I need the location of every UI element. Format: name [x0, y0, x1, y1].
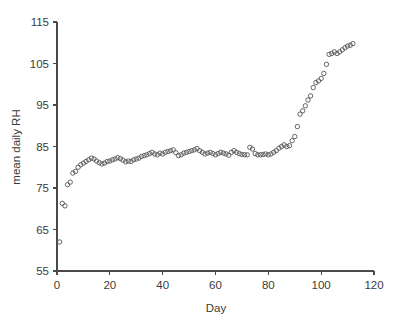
- y-tick-label-55: 55: [36, 265, 49, 277]
- y-tick-label-95: 95: [36, 99, 49, 111]
- data-point: [287, 143, 291, 147]
- data-point: [208, 150, 212, 154]
- data-point: [63, 204, 67, 208]
- y-tick-label-75: 75: [36, 182, 49, 194]
- y-tick-label-105: 105: [30, 58, 49, 70]
- data-point: [213, 153, 217, 157]
- x-tick-label-0: 0: [54, 279, 60, 291]
- data-point: [224, 152, 228, 156]
- data-points-group: [57, 41, 355, 244]
- data-point: [227, 153, 231, 157]
- data-point: [68, 180, 72, 184]
- data-point: [145, 153, 149, 157]
- x-tick-label-60: 60: [209, 279, 222, 291]
- x-tick-label-120: 120: [364, 279, 383, 291]
- data-point: [324, 62, 328, 66]
- chart-container: 5565758595105115020406080100120 Day mean…: [0, 0, 399, 322]
- data-point: [306, 98, 310, 102]
- data-point: [57, 240, 61, 244]
- data-point: [113, 157, 117, 161]
- y-tick-label-85: 85: [36, 141, 49, 153]
- y-axis-title: mean daily RH: [10, 109, 22, 184]
- data-point: [300, 109, 304, 113]
- data-point: [322, 71, 326, 75]
- data-point: [216, 151, 220, 155]
- data-point: [65, 182, 69, 186]
- data-point: [192, 148, 196, 152]
- axes-group: [57, 22, 374, 271]
- x-tick-label-20: 20: [103, 279, 116, 291]
- y-tick-label-115: 115: [31, 16, 49, 28]
- data-point: [319, 76, 323, 80]
- data-point: [290, 138, 294, 142]
- data-point: [60, 201, 64, 205]
- data-point: [211, 151, 215, 155]
- data-point: [76, 165, 80, 169]
- data-point: [303, 104, 307, 108]
- scatter-plot: 5565758595105115020406080100120 Day mean…: [0, 0, 399, 322]
- data-point: [293, 134, 297, 138]
- x-tick-label-40: 40: [156, 279, 169, 291]
- x-axis-title: Day: [206, 302, 227, 314]
- data-point: [295, 124, 299, 128]
- data-point: [253, 151, 257, 155]
- data-point: [174, 151, 178, 155]
- y-tick-label-65: 65: [36, 224, 49, 236]
- data-point: [308, 94, 312, 98]
- data-point: [311, 85, 315, 89]
- data-point: [147, 151, 151, 155]
- ticks-group: [53, 22, 374, 275]
- x-tick-label-80: 80: [262, 279, 275, 291]
- x-tick-label-100: 100: [312, 279, 331, 291]
- data-point: [108, 159, 112, 163]
